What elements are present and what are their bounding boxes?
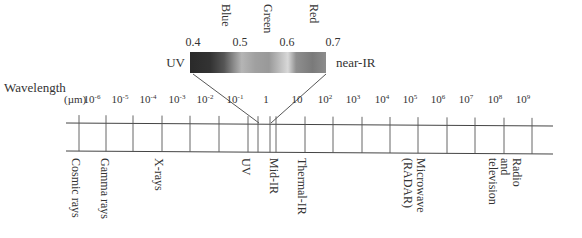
color-name-labels: BlueGreenRed [219, 4, 321, 33]
band-label: Thermal-IR [295, 158, 309, 215]
strip-bottom-line [66, 151, 553, 154]
scale-tick-label: 109 [516, 93, 531, 105]
scale-tick-label: 10-3 [169, 93, 186, 105]
band-labels: Cosmic raysGamma raysX-raysUVMid-IRTherm… [69, 158, 524, 219]
scale-tick-label: 10-5 [112, 93, 129, 105]
wavelength-label: 0.6 [280, 35, 295, 49]
scale-tick-labels: 10-610-510-410-310-210-11101021031041051… [84, 93, 531, 105]
band-label: television [486, 158, 500, 205]
near-ir-inset-label: near-IR [336, 55, 376, 70]
band-label: UV [239, 158, 253, 176]
visible-spectrum-inset: UV near-IR 0.40.50.60.7 BlueGreenRed [166, 4, 376, 123]
scale-tick-label: 108 [488, 93, 503, 105]
scale-tick-label: 1 [263, 93, 269, 105]
band-label: X-rays [152, 158, 166, 191]
scale-tick-label: 105 [403, 93, 418, 105]
scale-tick-label: 102 [318, 93, 333, 105]
scale-tick-label: 104 [375, 93, 390, 105]
electromagnetic-spectrum-diagram: UV near-IR 0.40.50.60.7 BlueGreenRed Wav… [0, 0, 582, 238]
scale-tick-label: 10-4 [140, 93, 157, 105]
band-label: Microwave [414, 158, 428, 213]
scale-tick-label: 10-2 [197, 93, 214, 105]
band-label: Gamma rays [98, 158, 112, 219]
scale-tick-label: 103 [346, 93, 361, 105]
wavelength-label: 0.5 [233, 35, 248, 49]
scale-tick-label: 106 [431, 93, 446, 105]
strip-top-line [66, 123, 553, 126]
scale-tick-label: 10 [292, 93, 304, 105]
axis-title: Wavelength [4, 80, 66, 95]
wavelength-label: 0.4 [186, 35, 201, 49]
wavelength-label: 0.7 [326, 35, 341, 49]
band-divider-lines [79, 115, 532, 154]
wavelength-labels: 0.40.50.60.7 [186, 35, 341, 49]
color-label-green: Green [261, 4, 275, 33]
spectrum-strip [66, 115, 553, 154]
uv-inset-label: UV [166, 55, 185, 70]
band-label: Cosmic rays [69, 158, 83, 218]
color-label-blue: Blue [219, 4, 233, 27]
band-label: (RADAR) [401, 158, 415, 208]
visible-spectrum-bar [190, 52, 326, 73]
color-label-red: Red [307, 4, 321, 23]
band-label: Mid-IR [267, 158, 281, 194]
scale-tick-label: 10-6 [84, 93, 101, 105]
scale-tick-label: 107 [459, 93, 474, 105]
scale-tick-label: 10-1 [227, 93, 244, 105]
